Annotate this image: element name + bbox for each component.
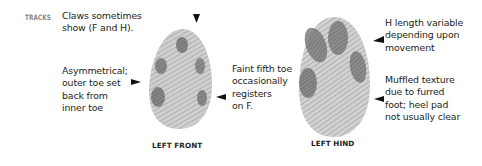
note-claws-line-1: Claws sometimes: [62, 10, 142, 22]
arrow-left-icon-hind-lower: [374, 96, 384, 102]
arrow-left-icon: [216, 94, 226, 100]
note-asymmetrical-line-1: Asymmetrical;: [62, 65, 128, 77]
note-muffled-line-3: foot; heel pad: [385, 99, 460, 111]
note-asymmetrical-line-2: outer toe set: [62, 77, 128, 89]
note-muffled-line-2: due to furred: [385, 86, 460, 98]
note-asymmetrical-line-3: back from: [62, 90, 128, 102]
note-fifth-toe-line-1: Faint fifth toe: [232, 63, 292, 75]
note-muffled-line-1: Muffled texture: [385, 74, 460, 86]
note-muffled-texture: Muffled texture due to furred foot; heel…: [385, 74, 460, 124]
arrow-down-icon: [193, 14, 200, 23]
note-h-length-line-3: movement: [385, 42, 463, 54]
note-fifth-toe-line-3: registers: [232, 88, 292, 100]
note-h-length: H length variable depending upon movemen…: [385, 17, 463, 54]
note-asymmetrical: Asymmetrical; outer toe set back from in…: [62, 65, 128, 115]
arrow-right-icon: [131, 79, 141, 85]
note-muffled-line-4: not usually clear: [385, 111, 460, 123]
note-asymmetrical-line-4: inner toe: [62, 102, 128, 114]
caption-left-hind: LEFT HIND: [311, 139, 354, 148]
note-fifth-toe: Faint fifth toe occasionally registers o…: [232, 63, 292, 113]
left-hind-track-illustration: [296, 15, 374, 139]
section-label-tracks: TRACKS: [25, 13, 51, 22]
note-h-length-line-2: depending upon: [385, 29, 463, 41]
note-fifth-toe-line-4: on F.: [232, 100, 292, 112]
note-claws: Claws sometimes show (F and H).: [62, 10, 142, 35]
note-h-length-line-1: H length variable: [385, 17, 463, 29]
note-claws-line-2: show (F and H).: [62, 22, 142, 34]
left-front-track-illustration: [146, 27, 216, 131]
caption-left-front: LEFT FRONT: [152, 141, 202, 150]
note-fifth-toe-line-2: occasionally: [232, 75, 292, 87]
arrow-left-icon-hind-upper: [373, 36, 384, 43]
